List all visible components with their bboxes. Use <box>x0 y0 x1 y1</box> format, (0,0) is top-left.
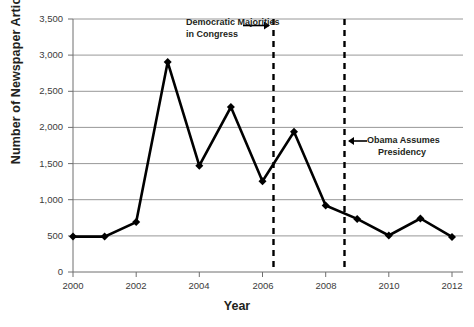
x-tick-label-2006: 2006 <box>238 281 288 291</box>
annotation-democratic-majorities-line2: in Congress <box>186 28 280 40</box>
annotation-democratic-majorities: Democratic Majorities in Congress <box>186 16 280 40</box>
data-point-2002 <box>132 218 140 226</box>
chart-container: 3,500 3,000 2,500 2,000 1,500 1,000 500 … <box>0 0 474 327</box>
y-axis-title: Number of Newspaper Articles <box>9 0 23 164</box>
annotation-democratic-majorities-line1: Democratic Majorities <box>186 16 280 28</box>
x-tick-label-2002: 2002 <box>111 281 161 291</box>
y-tick-label-1000: 1,000 <box>19 195 63 205</box>
x-tick-label-2004: 2004 <box>174 281 224 291</box>
annotation-obama-presidency: Obama Assumes Presidency <box>367 134 440 158</box>
x-tick-label-2010: 2010 <box>364 281 414 291</box>
annotation-obama-presidency-line1: Obama Assumes <box>367 134 440 146</box>
y-tick-label-500: 500 <box>19 231 63 241</box>
x-tick-label-2012: 2012 <box>427 281 474 291</box>
y-tick-label-0: 0 <box>19 267 63 277</box>
annotation-obama-presidency-line2: Presidency <box>367 146 440 158</box>
x-tick-label-2008: 2008 <box>301 281 351 291</box>
x-axis <box>73 272 463 277</box>
x-tick-label-2000: 2000 <box>48 281 98 291</box>
annotation-arrow-left-icon <box>348 137 367 145</box>
data-point-2000 <box>69 233 77 241</box>
data-point-2001 <box>101 233 109 241</box>
data-point-2003 <box>164 58 172 66</box>
x-axis-title: Year <box>0 299 474 313</box>
gridlines <box>73 19 463 236</box>
data-point-2008 <box>322 202 330 210</box>
y-axis-title-wrap: Number of Newspaper Articles <box>4 0 28 180</box>
line-chart-plot <box>0 0 474 327</box>
